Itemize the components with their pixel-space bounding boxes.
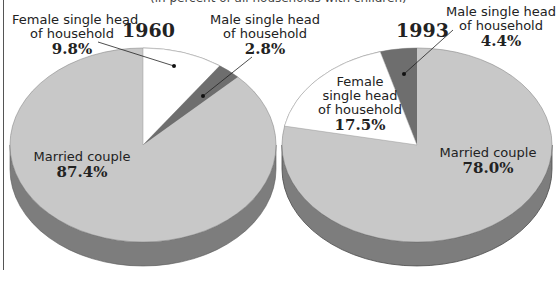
pie-1993-label-female: Female single head of household 17.5% bbox=[310, 75, 410, 134]
pie-1993-label-male: Male single head of household 4.4% bbox=[445, 5, 557, 50]
pie-1960-label-female: Female single head of household 9.8% bbox=[12, 13, 132, 58]
pie-1960-label-male: Male single head of household 2.8% bbox=[210, 13, 320, 58]
pie-1960-label-married: Married couple 87.4% bbox=[32, 150, 132, 181]
pie-1993-label-married: Married couple 78.0% bbox=[438, 146, 538, 177]
chart-subtitle-partial: (in percent of all households with child… bbox=[150, 0, 407, 5]
pie-1993-year: 1993 bbox=[396, 19, 449, 41]
